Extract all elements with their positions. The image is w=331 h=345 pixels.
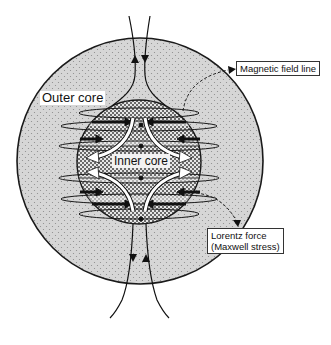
core-diagram	[0, 0, 331, 345]
maxwell-stress-text: (Maxwell stress)	[211, 241, 280, 252]
magnetic-field-line-text: Magnetic field line	[240, 63, 316, 74]
magnetic-field-line-label: Magnetic field line	[236, 61, 320, 76]
leader-arrowhead-field	[228, 66, 236, 74]
outer-core-label: Outer core	[40, 91, 105, 105]
lorentz-force-text: Lorentz force	[211, 230, 280, 241]
lorentz-force-label: Lorentz force (Maxwell stress)	[207, 228, 284, 254]
inner-core-label: Inner core	[112, 154, 170, 168]
